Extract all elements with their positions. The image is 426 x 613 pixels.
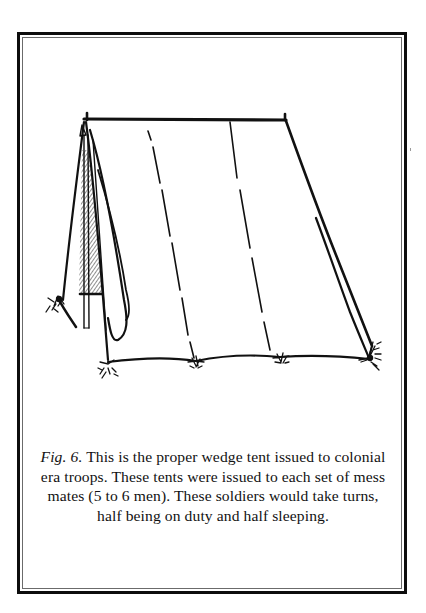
- margin-speck: [410, 148, 411, 151]
- grass-tuft-right-stake: [359, 342, 381, 370]
- grass-tufts: [46, 296, 381, 378]
- right-slope-outer: [286, 121, 372, 346]
- tent-drawing: [58, 113, 372, 362]
- front-pole-b: [88, 135, 89, 328]
- right-seam: [230, 122, 270, 350]
- right-slope-inner: [316, 218, 369, 358]
- caption-line-1-text: This is the proper wedge tent issued to …: [82, 448, 385, 465]
- caption-line-4: half being on duty and half sleeping.: [24, 506, 402, 526]
- caption-line-3: mates (5 to 6 men). These soldiers would…: [24, 486, 402, 506]
- figure-caption: Fig. 6. This is the proper wedge tent is…: [24, 447, 402, 525]
- wedge-tent-illustration: [0, 0, 426, 420]
- caption-line-2: era troops. These tents were issued to e…: [24, 467, 402, 487]
- ridge-pole: [84, 119, 286, 120]
- caption-line-1: Fig. 6. This is the proper wedge tent is…: [24, 447, 402, 467]
- tent-bottom-edge: [108, 356, 369, 362]
- left-seam: [148, 131, 194, 358]
- figure-label: Fig. 6.: [41, 448, 83, 465]
